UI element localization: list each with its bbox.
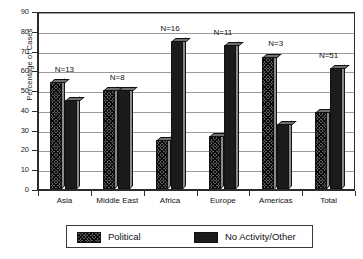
x-category-label-total: Total [289, 197, 363, 205]
y-tick-70 [32, 52, 38, 53]
n-label-asia: N=13 [24, 66, 104, 74]
bar-side-3d [236, 41, 239, 189]
bar-europe-no-activity [224, 42, 239, 189]
gridline-30 [39, 132, 354, 133]
gridline-20 [39, 151, 354, 152]
bar-total-no-activity [330, 65, 345, 189]
y-tick-label-70: 70 [0, 48, 29, 56]
legend-item-noactivity: No Activity/Other [194, 231, 296, 243]
n-label-europe: N=11 [183, 29, 263, 37]
plot-area [38, 12, 355, 190]
bar-top-3d [65, 97, 85, 101]
bar-face [277, 124, 289, 189]
bar-americas-no-activity [277, 121, 292, 189]
legend-swatch-political [77, 232, 101, 243]
y-tick-label-20: 20 [0, 146, 29, 154]
y-tick-30 [32, 131, 38, 132]
x-tick-1 [91, 191, 92, 196]
x-tick-4 [249, 191, 250, 196]
bar-africa-no-activity [171, 38, 186, 189]
bar-europe-political [209, 133, 224, 189]
bar-top-3d [262, 54, 282, 58]
bar-face [330, 68, 342, 189]
bar-top-3d [330, 65, 350, 69]
legend-swatch-noactivity [194, 232, 218, 243]
bar-top-3d [50, 79, 70, 83]
y-tick-label-30: 30 [0, 127, 29, 135]
bar-face [315, 112, 327, 189]
legend-item-political: Political [77, 231, 141, 243]
bar-face [118, 90, 130, 189]
y-tick-50 [32, 91, 38, 92]
y-tick-label-10: 10 [0, 166, 29, 174]
x-tick-3 [197, 191, 198, 196]
y-tick-label-40: 40 [0, 107, 29, 115]
bar-face [65, 100, 77, 189]
x-tick-2 [144, 191, 145, 196]
bar-total-political [315, 109, 330, 189]
bar-face [156, 140, 168, 189]
gridline-10 [39, 171, 354, 172]
bar-face [50, 82, 62, 189]
bar-asia-political [50, 79, 65, 189]
bar-middle-east-no-activity [118, 87, 133, 189]
y-tick-label-80: 80 [0, 28, 29, 36]
bar-middle-east-political [103, 87, 118, 189]
legend: PoliticalNo Activity/Other [66, 225, 313, 248]
n-label-middle-east: N=8 [77, 74, 157, 82]
bar-chart: Percentage of Cases 0102030405060708090 … [0, 0, 363, 259]
bar-top-3d [118, 87, 138, 91]
bar-asia-no-activity [65, 97, 80, 189]
bar-top-3d [171, 38, 191, 42]
bar-side-3d [77, 96, 80, 189]
bar-side-3d [130, 87, 133, 189]
y-tick-90 [32, 12, 38, 13]
y-tick-80 [32, 32, 38, 33]
n-label-total: N=51 [289, 52, 363, 60]
bar-side-3d [289, 120, 292, 189]
x-tick-5 [302, 191, 303, 196]
bar-face [171, 41, 183, 189]
legend-label-noactivity: No Activity/Other [225, 232, 296, 242]
bar-africa-political [156, 137, 171, 189]
gridline-50 [39, 92, 354, 93]
gridline-40 [39, 112, 354, 113]
bar-americas-political [262, 54, 277, 190]
bar-top-3d [277, 121, 297, 125]
gridline-90 [39, 13, 354, 14]
x-tick-6 [355, 191, 356, 196]
y-tick-label-90: 90 [0, 8, 29, 16]
bar-face [224, 45, 236, 189]
y-tick-10 [32, 170, 38, 171]
legend-label-political: Political [108, 232, 141, 242]
bar-face [103, 90, 115, 189]
bar-face [262, 57, 274, 190]
y-tick-20 [32, 150, 38, 151]
x-tick-0 [38, 191, 39, 196]
y-tick-label-50: 50 [0, 87, 29, 95]
bar-side-3d [183, 37, 186, 189]
bar-side-3d [342, 65, 345, 189]
n-label-americas: N=3 [236, 40, 316, 48]
bar-face [209, 136, 221, 189]
y-tick-40 [32, 111, 38, 112]
y-tick-label-0: 0 [0, 186, 29, 194]
